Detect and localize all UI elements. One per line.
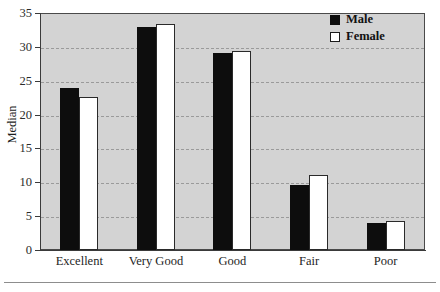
y-tick-label-0: 0 [6, 243, 32, 258]
x-tick-label-good: Good [194, 254, 271, 274]
legend-swatch-male-icon [330, 15, 340, 25]
bottom-divider [4, 282, 436, 283]
x-tick-labels: Excellent Very Good Good Fair Poor [41, 254, 424, 274]
x-tick-label-very-good: Very Good [118, 254, 195, 274]
y-tick-label-30: 30 [6, 40, 32, 55]
x-tick-label-fair: Fair [271, 254, 348, 274]
y-tick-label-5: 5 [6, 209, 32, 224]
bar-chart: 35 30 25 20 15 10 5 0 Median Excellent V… [0, 0, 440, 292]
legend-item-male: Male [330, 12, 404, 27]
chart-legend: Male Female [330, 12, 404, 46]
x-tick-label-poor: Poor [347, 254, 424, 274]
y-axis-title: Median [5, 89, 20, 161]
x-tick-label-excellent: Excellent [41, 254, 118, 274]
legend-item-female: Female [330, 29, 404, 44]
legend-swatch-female-icon [330, 32, 340, 42]
y-tick-label-35: 35 [6, 6, 32, 21]
legend-label-female: Female [346, 30, 385, 43]
y-tick-label-10: 10 [6, 175, 32, 190]
y-tick-label-25: 25 [6, 74, 32, 89]
legend-label-male: Male [346, 13, 373, 26]
